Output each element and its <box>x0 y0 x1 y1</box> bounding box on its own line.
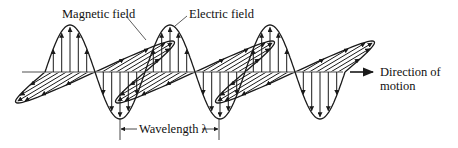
electric-leader-line <box>175 16 187 26</box>
magnetic-leader-line <box>126 16 146 40</box>
direction-label-line2: motion <box>380 79 416 93</box>
magnetic-vector-arrow-icon <box>25 72 74 101</box>
wavelength-dimension: Wavelength λ <box>120 118 219 140</box>
magnetic-vector-arrow-icon <box>116 43 165 72</box>
magnetic-vector-arrow-icon <box>118 72 167 101</box>
direction-label-line1: Direction of <box>380 65 442 79</box>
magnetic-vector-arrow-icon <box>225 72 274 101</box>
magnetic-field-label: Magnetic field <box>62 7 136 21</box>
magnetic-vector-arrow-icon <box>18 72 67 101</box>
magnetic-vector-arrow-icon <box>125 72 174 101</box>
electric-field-label: Electric field <box>189 7 255 21</box>
wavelength-label: Wavelength λ <box>139 122 208 136</box>
magnetic-vector-arrow-icon <box>224 43 273 72</box>
magnetic-vector-arrow-icon <box>124 43 173 72</box>
magnetic-vector-arrow-icon <box>218 72 267 101</box>
em-wave-diagram: Direction of motion Magnetic field Elect… <box>0 0 458 148</box>
magnetic-vector-arrow-icon <box>316 43 365 72</box>
magnetic-vector-arrow-icon <box>216 43 265 72</box>
magnetic-vector-arrow-icon <box>324 43 373 72</box>
